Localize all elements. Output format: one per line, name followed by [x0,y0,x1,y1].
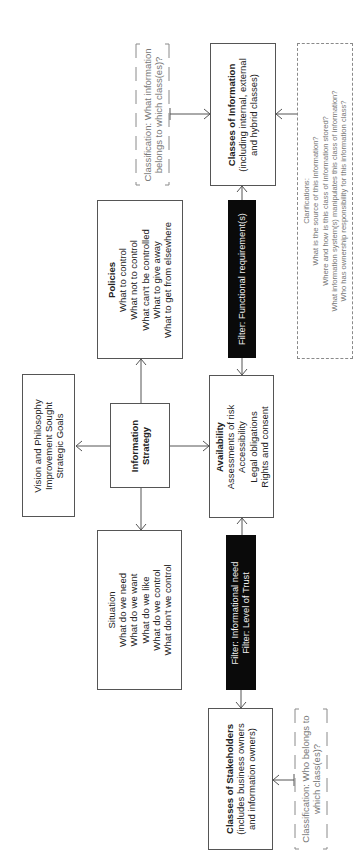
vision-box: Vision and Philosophy Improvement Sought… [22,374,75,517]
policies-line: What to control [118,221,129,337]
policies-line: What to get from elsewhere [162,221,173,337]
strategy-title: Strategy [140,419,151,471]
clarifications-line: Who has ownership responsibility for thi… [339,90,348,311]
clarifications-box: Clarifications: What is the source of th… [297,43,353,359]
classification-line: belongs to which class(es)? [153,48,164,181]
situation-line: What don't we control [162,564,173,655]
availability-box: Availability Assessments of risk Accessi… [209,375,274,518]
policies-line: What not to control [129,221,140,337]
filter-need-and-trust: Filter: Informational need Filter: Level… [226,535,256,690]
classes-of-stakeholders-box: Classes of Stakeholders (includes busine… [208,708,273,850]
info-classes-title: Classes of Information [226,58,237,172]
filter-label: Filter: Informational need [230,561,241,664]
situation-box: Situation What do we need What do we wan… [97,530,182,690]
clarifications-line: What is the source of this information? [311,90,320,311]
stakeholders-title: Classes of Stakeholders [224,723,235,834]
policies-line: What to give away [151,221,162,337]
stakeholders-line: and information owners) [246,723,257,834]
situation-line: What do we need [117,564,128,655]
filter-label: Filter: Level of Trust [241,561,252,664]
policies-title: Policies [106,221,117,337]
situation-line: What do we like [140,564,151,655]
strategy-title: Information [129,419,140,471]
availability-title: Availability [213,404,224,488]
classification-information-bracket: Classification: What information belongs… [135,43,170,186]
clarifications-line: What information system(s) manipulates t… [330,90,339,311]
filter-functional-requirements: Filter: Functional requirement(s) [228,200,256,358]
clarifications-line: Clarifications: [302,90,311,311]
classification-line: which class(es)? [311,715,322,842]
availability-line: Accessibility [236,404,247,488]
situation-line: What do we control [151,564,162,655]
situation-line: Situation [106,564,117,655]
vision-line: Strategic Goals [54,399,65,492]
classification-stakeholders-bracket: Classification: Who belongs to which cla… [294,708,328,850]
info-classes-line: (including internal, external [237,58,248,172]
information-strategy-box: Information Strategy [110,403,170,488]
classification-line: Classification: Who belongs to [300,715,311,842]
availability-line: Assessments of risk [225,404,236,488]
classification-line: Classification: What information [141,48,152,181]
vision-line: Vision and Philosophy [32,399,43,492]
filter-label: Filter: Functional requirement(s) [237,213,248,345]
availability-line: Legal obligations [247,404,258,488]
info-classes-line: and hybrid classes) [249,58,260,172]
situation-line: What do we want [128,564,139,655]
policies-line: What can't be controlled [140,221,151,337]
clarifications-line: Where and how is this class of informati… [320,90,329,311]
policies-box: Policies What to control What not to con… [97,200,183,359]
availability-line: Rights and consent [258,404,269,488]
classes-of-information-box: Classes of Information (including intern… [210,43,276,186]
vision-line: Improvement Sought [43,399,54,492]
stakeholders-line: (includes business owners [235,723,246,834]
